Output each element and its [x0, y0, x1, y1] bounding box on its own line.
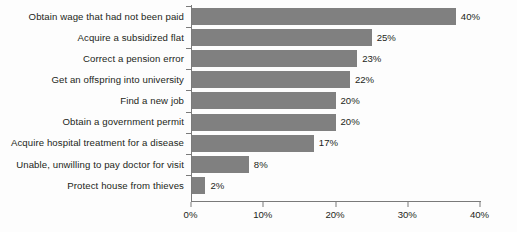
category-label: Find a new job	[120, 96, 184, 106]
category-label: Acquire hospital treatment for a disease	[11, 138, 184, 148]
category-label: Protect house from thieves	[67, 181, 184, 191]
bar	[191, 50, 357, 67]
bar	[191, 8, 456, 25]
x-axis-ticks: 0%10%20%30%40%	[191, 202, 481, 228]
bar-row: Get an offspring into university22%	[191, 69, 480, 90]
bar	[191, 177, 205, 194]
bar-row: Acquire a subsidized flat25%	[191, 27, 480, 48]
y-axis-line	[191, 5, 192, 202]
category-label: Obtain a government permit	[62, 117, 184, 127]
bar-row: Correct a pension error23%	[191, 48, 480, 69]
y-axis-tick	[186, 27, 191, 48]
y-axis-tick	[186, 6, 191, 27]
bar-value-label: 8%	[254, 160, 268, 170]
x-axis-tick-mark	[335, 202, 336, 207]
bar-value-label: 40%	[461, 12, 480, 22]
bar	[191, 156, 249, 173]
bar	[191, 29, 372, 46]
category-label: Unable, unwilling to pay doctor for visi…	[16, 160, 184, 170]
y-axis-tick	[186, 48, 191, 69]
y-axis-tick	[186, 90, 191, 111]
x-axis-tick-label: 20%	[325, 210, 344, 220]
plot-area: Obtain wage that had not been paid40%Acq…	[191, 6, 480, 202]
category-label: Correct a pension error	[83, 54, 184, 64]
y-axis-tick	[186, 175, 191, 196]
bar	[191, 114, 336, 131]
category-label: Get an offspring into university	[51, 75, 184, 85]
category-label: Obtain wage that had not been paid	[29, 12, 184, 22]
x-axis-tick-label: 10%	[253, 210, 272, 220]
bar-value-label: 25%	[377, 33, 396, 43]
x-axis-tick-mark	[407, 202, 408, 207]
x-axis-tick-label: 0%	[184, 210, 198, 220]
x-axis-tick-mark	[480, 202, 481, 207]
x-axis-tick: 30%	[407, 202, 408, 207]
y-axis-ticks	[186, 6, 191, 196]
x-axis-tick-label: 30%	[398, 210, 417, 220]
bar-value-label: 20%	[341, 96, 360, 106]
bar-value-label: 22%	[355, 75, 374, 85]
x-axis-tick: 20%	[335, 202, 336, 207]
x-axis-tick-mark	[263, 202, 264, 207]
bar-row: Protect house from thieves2%	[191, 175, 480, 196]
bar-row: Find a new job20%	[191, 90, 480, 111]
x-axis-tick-mark	[191, 202, 192, 207]
x-axis-tick: 0%	[191, 202, 192, 207]
bar-row: Acquire hospital treatment for a disease…	[191, 133, 480, 154]
bar-row: Obtain wage that had not been paid40%	[191, 6, 480, 27]
bar-value-label: 17%	[319, 138, 338, 148]
y-axis-tick	[186, 69, 191, 90]
x-axis-tick: 10%	[263, 202, 264, 207]
x-axis-tick: 40%	[480, 202, 481, 207]
bar-row: Unable, unwilling to pay doctor for visi…	[191, 154, 480, 175]
bar	[191, 135, 314, 152]
bar	[191, 71, 350, 88]
bar-value-label: 20%	[341, 117, 360, 127]
bar	[191, 92, 336, 109]
bar-chart: Obtain wage that had not been paid40%Acq…	[0, 0, 517, 232]
bar-rows: Obtain wage that had not been paid40%Acq…	[191, 6, 480, 196]
bar-value-label: 23%	[362, 54, 381, 64]
y-axis-tick	[186, 133, 191, 154]
y-axis-tick	[186, 112, 191, 133]
bar-row: Obtain a government permit20%	[191, 112, 480, 133]
bar-value-label: 2%	[210, 181, 224, 191]
category-label: Acquire a subsidized flat	[78, 33, 185, 43]
y-axis-tick	[186, 154, 191, 175]
x-axis-tick-label: 40%	[470, 210, 489, 220]
